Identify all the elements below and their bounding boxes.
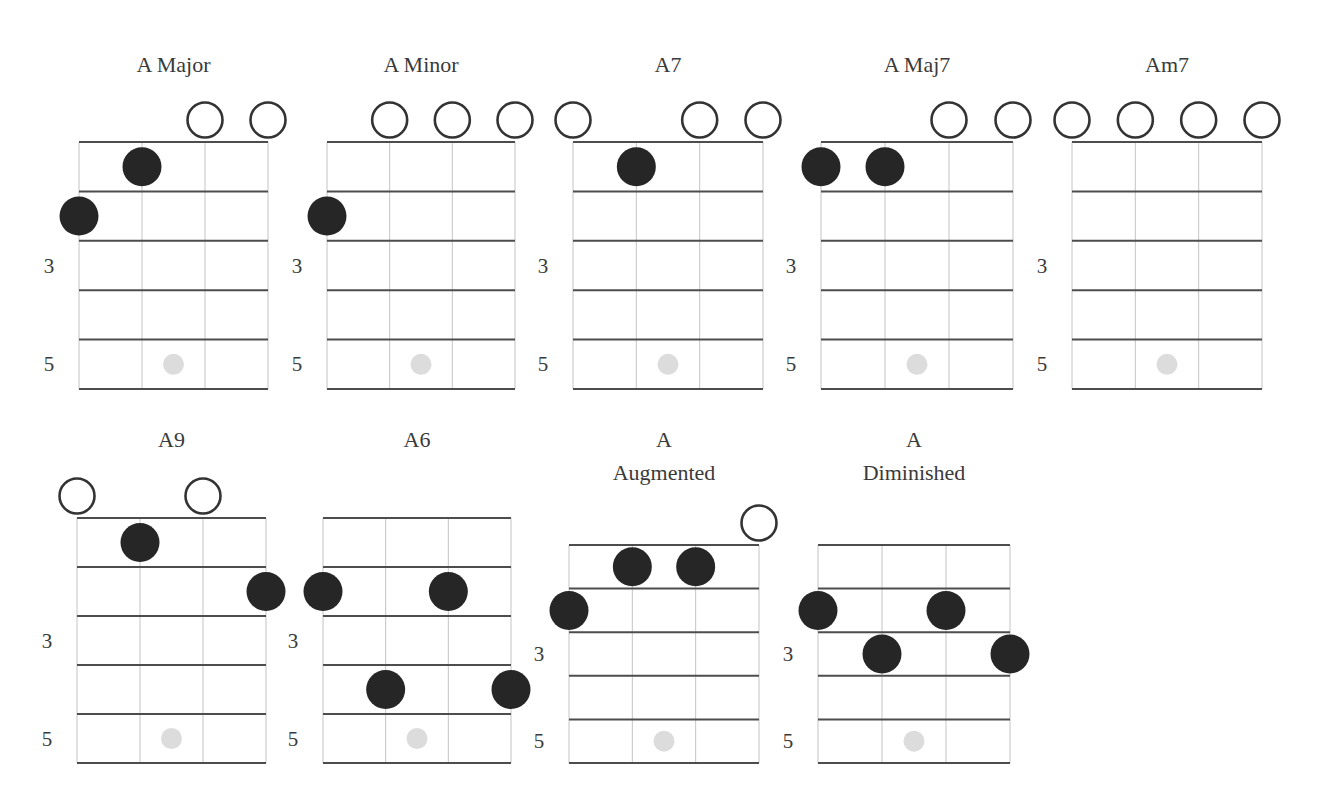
fret-number-label: 5 — [786, 352, 797, 376]
finger-dot-icon — [366, 670, 405, 709]
fret-marker-icon — [163, 354, 184, 375]
fret-number-label: 3 — [1037, 254, 1048, 278]
open-string-icon — [60, 479, 95, 514]
open-string-icon — [996, 103, 1031, 138]
finger-dot-icon — [121, 523, 160, 562]
finger-dot-icon — [247, 572, 286, 611]
chord-title: A — [656, 427, 672, 452]
fret-marker-icon — [407, 728, 428, 749]
chord-diagram-am7: Am735 — [1037, 52, 1280, 389]
finger-dot-icon — [492, 670, 531, 709]
open-string-icon — [1118, 103, 1153, 138]
finger-dot-icon — [863, 635, 902, 674]
fret-number-label: 5 — [538, 352, 549, 376]
open-string-icon — [1181, 103, 1216, 138]
finger-dot-icon — [429, 572, 468, 611]
fret-number-label: 5 — [783, 729, 794, 753]
fret-number-label: 5 — [292, 352, 303, 376]
open-string-icon — [435, 103, 470, 138]
finger-dot-icon — [802, 147, 841, 186]
fret-number-label: 3 — [288, 629, 299, 653]
chord-diagram-a-major: A Major35 — [44, 52, 286, 389]
chord-diagram-a6: A635 — [288, 427, 531, 763]
open-string-icon — [188, 103, 223, 138]
finger-dot-icon — [123, 147, 162, 186]
finger-dot-icon — [308, 197, 347, 236]
finger-dot-icon — [799, 591, 838, 630]
finger-dot-icon — [617, 147, 656, 186]
fret-marker-icon — [654, 731, 675, 752]
finger-dot-icon — [550, 591, 589, 630]
open-string-icon — [186, 479, 221, 514]
open-string-icon — [251, 103, 286, 138]
chord-title: A Maj7 — [884, 52, 951, 77]
chord-title: A7 — [655, 52, 682, 77]
fret-number-label: 3 — [292, 254, 303, 278]
open-string-icon — [746, 103, 781, 138]
open-string-icon — [372, 103, 407, 138]
finger-dot-icon — [60, 197, 99, 236]
chord-diagram-a-minor: A Minor35 — [292, 52, 533, 389]
finger-dot-icon — [304, 572, 343, 611]
open-string-icon — [932, 103, 967, 138]
chord-title: Augmented — [613, 460, 716, 485]
chord-chart: A Major35A Minor35A735A Maj735Am735A935A… — [0, 0, 1333, 806]
fret-marker-icon — [907, 354, 928, 375]
fret-marker-icon — [1157, 354, 1178, 375]
finger-dot-icon — [613, 547, 652, 586]
chord-diagram-a-augmented: AAugmented35 — [534, 427, 777, 763]
fret-number-label: 5 — [1037, 352, 1048, 376]
fret-number-label: 5 — [44, 352, 55, 376]
fret-marker-icon — [161, 728, 182, 749]
fret-number-label: 5 — [42, 727, 53, 751]
finger-dot-icon — [927, 591, 966, 630]
fret-marker-icon — [658, 354, 679, 375]
chord-title: Diminished — [863, 460, 966, 485]
fret-number-label: 5 — [288, 727, 299, 751]
chord-title: A — [906, 427, 922, 452]
fret-number-label: 3 — [42, 629, 53, 653]
chord-title: A6 — [404, 427, 431, 452]
open-string-icon — [682, 103, 717, 138]
open-string-icon — [1055, 103, 1090, 138]
fret-number-label: 3 — [538, 254, 549, 278]
chord-diagram-a-diminished: ADiminished35 — [783, 427, 1030, 763]
fret-number-label: 3 — [786, 254, 797, 278]
open-string-icon — [556, 103, 591, 138]
fret-number-label: 3 — [783, 642, 794, 666]
chord-title: Am7 — [1145, 52, 1189, 77]
finger-dot-icon — [676, 547, 715, 586]
chord-diagram-a9: A935 — [42, 427, 286, 763]
chord-diagram-a-maj7: A Maj735 — [786, 52, 1031, 389]
chord-title: A9 — [158, 427, 185, 452]
chord-title: A Minor — [383, 52, 459, 77]
fret-marker-icon — [904, 731, 925, 752]
finger-dot-icon — [866, 147, 905, 186]
fret-number-label: 3 — [44, 254, 55, 278]
fret-number-label: 5 — [534, 729, 545, 753]
fret-marker-icon — [411, 354, 432, 375]
open-string-icon — [742, 506, 777, 541]
open-string-icon — [1245, 103, 1280, 138]
open-string-icon — [498, 103, 533, 138]
fret-number-label: 3 — [534, 642, 545, 666]
chord-diagram-a7: A735 — [538, 52, 781, 389]
finger-dot-icon — [991, 635, 1030, 674]
chord-title: A Major — [137, 52, 212, 77]
